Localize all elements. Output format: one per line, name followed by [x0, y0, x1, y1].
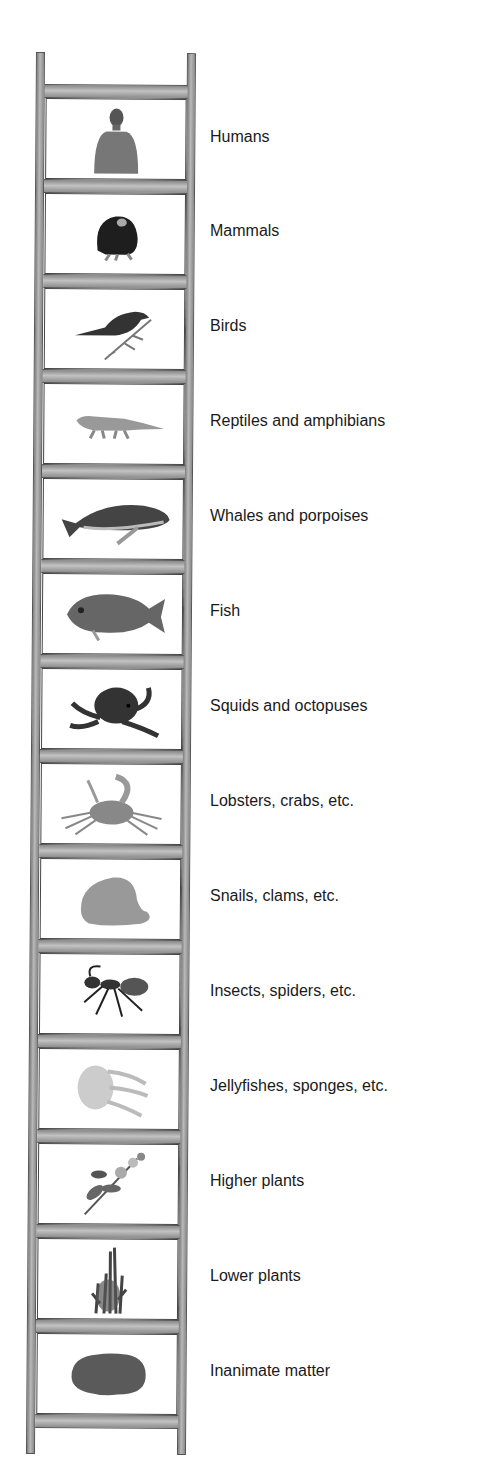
- crab-icon: [51, 768, 172, 841]
- ladder-rung: [36, 1319, 179, 1334]
- ladder-rung: [42, 464, 185, 479]
- ladder-rung: [41, 654, 184, 669]
- label-lower-plants: Lower plants: [210, 1267, 301, 1285]
- ladder-rung: [38, 1034, 181, 1049]
- panel-lobsters: [40, 763, 182, 845]
- ladder-rung: [43, 369, 186, 384]
- mammal-icon: [55, 198, 176, 271]
- label-snails: Snails, clams, etc.: [210, 887, 339, 905]
- clam-icon: [50, 863, 171, 936]
- bird-icon: [54, 293, 175, 366]
- panel-squids: [41, 668, 183, 750]
- panel-higher-plants: [38, 1143, 180, 1225]
- octopus-icon: [52, 673, 173, 746]
- ladder-rung: [45, 84, 188, 99]
- ladder-rung: [37, 1129, 180, 1144]
- panel-insects: [39, 953, 181, 1035]
- label-jellyfishes: Jellyfishes, sponges, etc.: [210, 1077, 388, 1095]
- ant-icon: [50, 958, 171, 1031]
- human-icon: [56, 103, 177, 176]
- panel-lower-plants: [37, 1238, 179, 1320]
- panel-inanimate-matter: [36, 1333, 178, 1415]
- ladder-rung: [39, 844, 182, 859]
- panel-reptiles: [43, 383, 185, 465]
- rock-icon: [47, 1338, 168, 1411]
- panel-snails: [40, 858, 182, 940]
- label-inanimate-matter: Inanimate matter: [210, 1362, 330, 1380]
- panel-whales: [42, 478, 184, 560]
- label-insects: Insects, spiders, etc.: [210, 982, 356, 1000]
- moss-icon: [47, 1243, 168, 1316]
- label-humans: Humans: [210, 128, 270, 146]
- ladder-rung: [41, 559, 184, 574]
- panel-fish: [42, 573, 184, 655]
- label-squids: Squids and octopuses: [210, 697, 367, 715]
- ladder-rung: [43, 274, 186, 289]
- label-birds: Birds: [210, 317, 246, 335]
- panel-mammals: [44, 193, 186, 275]
- panel-jellyfishes: [38, 1048, 180, 1130]
- label-lobsters: Lobsters, crabs, etc.: [210, 792, 354, 810]
- ladder-rung: [37, 1224, 180, 1239]
- panel-birds: [44, 288, 186, 370]
- reptile-icon: [54, 388, 175, 461]
- ladder-rung: [35, 1414, 178, 1429]
- label-mammals: Mammals: [210, 222, 279, 240]
- label-reptiles: Reptiles and amphibians: [210, 412, 385, 430]
- whale-icon: [53, 483, 174, 556]
- jellyfish-icon: [49, 1053, 170, 1126]
- ladder-rung: [39, 939, 182, 954]
- label-higher-plants: Higher plants: [210, 1172, 304, 1190]
- flowering-plant-icon: [48, 1148, 169, 1221]
- ladder-rung: [44, 179, 187, 194]
- ladder-rung: [40, 749, 183, 764]
- panel-humans: [45, 98, 187, 180]
- fish-icon: [52, 578, 173, 651]
- label-whales: Whales and porpoises: [210, 507, 368, 525]
- label-fish: Fish: [210, 602, 240, 620]
